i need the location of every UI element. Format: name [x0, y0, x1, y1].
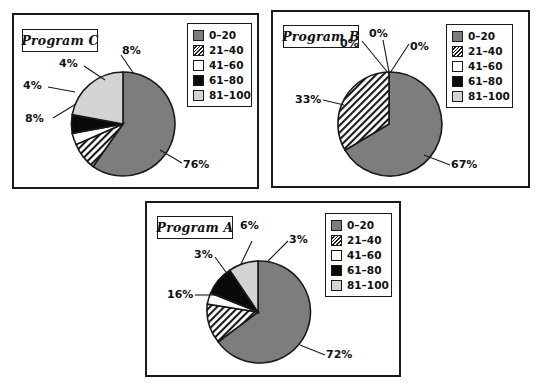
pct-b-21-40: 33% [295, 93, 321, 106]
pct-b-0-20: 67% [451, 158, 477, 171]
legend-label: 81–100 [347, 280, 389, 291]
legend-row: 21–40 [452, 44, 506, 58]
legend-label: 0–20 [209, 30, 236, 41]
legend-label: 21–40 [468, 46, 502, 57]
light-gray-swatch-icon [193, 90, 204, 101]
legend-label: 21–40 [347, 235, 381, 246]
pct-a-81-100: 3% [289, 233, 308, 246]
pct-c-81-100: 8% [122, 44, 141, 57]
legend-label: 21–40 [209, 45, 243, 56]
light-gray-swatch-icon [452, 91, 463, 102]
title-label-program-a: Program A [157, 220, 234, 235]
legend-label: 81–100 [209, 90, 251, 101]
legend-row: 81–100 [452, 89, 506, 103]
legend-row: 41–60 [331, 248, 385, 262]
legend-row: 21–40 [193, 43, 245, 57]
white-swatch-icon [452, 61, 463, 72]
legend-label: 61–80 [468, 76, 502, 87]
pct-a-41-60: 3% [194, 248, 213, 261]
solid-black-swatch-icon [193, 75, 204, 86]
legend-row: 41–60 [193, 58, 245, 72]
white-swatch-icon [331, 250, 342, 261]
legend-label: 41–60 [347, 250, 381, 261]
legend-label: 41–60 [209, 60, 243, 71]
legend-row: 0–20 [193, 28, 245, 42]
pct-b-61-80: 0% [340, 37, 359, 50]
pct-b-41-60: 0% [410, 40, 429, 53]
diagonal-hatch-swatch-icon [193, 45, 204, 56]
solid-black-swatch-icon [452, 76, 463, 87]
solid-gray-swatch-icon [193, 30, 204, 41]
legend-row: 81–100 [331, 278, 385, 292]
legend-row: 61–80 [452, 74, 506, 88]
legend-label: 81–100 [468, 91, 510, 102]
pct-a-61-80: 6% [240, 219, 259, 232]
pie-chart-program-a [206, 260, 310, 364]
title-box-program-a: Program A [157, 216, 233, 239]
legend-row: 81–100 [193, 88, 245, 102]
legend-program-c: 0–20 21–40 41–60 61–80 81–100 [187, 23, 252, 107]
solid-gray-swatch-icon [331, 220, 342, 231]
legend-label: 61–80 [209, 75, 243, 86]
legend-row: 21–40 [331, 233, 385, 247]
solid-gray-swatch-icon [452, 31, 463, 42]
legend-label: 0–20 [347, 220, 374, 231]
legend-row: 0–20 [452, 29, 506, 43]
pct-a-21-40: 16% [167, 288, 193, 301]
pct-c-21-40: 8% [25, 112, 44, 125]
diagonal-hatch-swatch-icon [452, 46, 463, 57]
legend-row: 61–80 [193, 73, 245, 87]
legend-label: 0–20 [468, 31, 495, 42]
legend-program-a: 0–20 21–40 41–60 61–80 81–100 [325, 213, 392, 297]
white-swatch-icon [193, 60, 204, 71]
title-box-program-c: Program C [22, 29, 98, 52]
legend-program-b: 0–20 21–40 41–60 61–80 81–100 [446, 24, 513, 108]
legend-row: 41–60 [452, 59, 506, 73]
solid-black-swatch-icon [331, 265, 342, 276]
pct-b-81-100: 0% [369, 27, 388, 40]
title-label-program-c: Program C [21, 33, 98, 48]
pie-chart-program-b [336, 71, 442, 177]
legend-row: 61–80 [331, 263, 385, 277]
pie-chart-figure: Program C Program B [0, 0, 536, 391]
pie-chart-program-c [70, 71, 176, 177]
slice-81-100-program-c [72, 72, 123, 124]
light-gray-swatch-icon [331, 280, 342, 291]
diagonal-hatch-swatch-icon [331, 235, 342, 246]
pct-a-0-20: 72% [326, 348, 352, 361]
legend-label: 41–60 [468, 61, 502, 72]
pct-c-0-20: 76% [183, 158, 209, 171]
legend-label: 61–80 [347, 265, 381, 276]
pct-c-61-80: 4% [59, 57, 78, 70]
pct-c-41-60: 4% [23, 79, 42, 92]
legend-row: 0–20 [331, 218, 385, 232]
